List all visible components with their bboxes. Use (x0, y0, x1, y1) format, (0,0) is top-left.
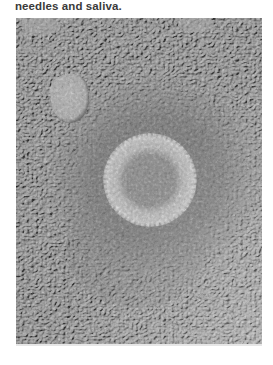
figure-bottom-edge (16, 344, 262, 346)
virus-micrograph-figure (16, 18, 262, 344)
micrograph-image (16, 18, 262, 344)
body-text-fragment: needles and saliva. (15, 0, 122, 13)
